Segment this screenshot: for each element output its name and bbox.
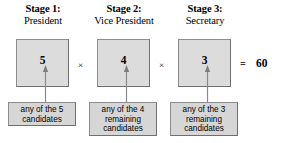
stage-3-title: Stage 3: — [162, 3, 248, 14]
stage-1-caption-line-1: any of the 5 — [11, 105, 73, 115]
stage-2-role: Vice President — [81, 15, 167, 26]
stage-column-1: Stage 1: President 5 any of the 5 candid… — [0, 0, 86, 26]
stage-3-caption-line-1: any of the 3 — [173, 105, 235, 115]
stage-2-header: Stage 2: Vice President — [81, 0, 167, 26]
stage-3-role: Secretary — [162, 15, 248, 26]
stage-2-caption-line-3: candidates — [92, 124, 154, 134]
equals-operator: = — [240, 59, 246, 69]
stage-2-title: Stage 2: — [81, 3, 167, 14]
stage-1-arrow-icon — [41, 63, 50, 103]
stage-3-header: Stage 3: Secretary — [162, 0, 248, 26]
stage-2-caption-line-2: remaining — [92, 115, 154, 125]
stage-2-caption-box: any of the 4 remaining candidates — [89, 102, 157, 136]
stage-1-caption-box: any of the 5 candidates — [8, 102, 76, 126]
stage-column-2: Stage 2: Vice President 4 any of the 4 r… — [81, 0, 167, 26]
multiply-operator-1: × — [78, 61, 83, 70]
stage-3-caption-line-3: candidates — [173, 124, 235, 134]
stage-1-header: Stage 1: President — [0, 0, 86, 26]
stage-3-caption-line-2: remaining — [173, 115, 235, 125]
stage-3-arrow-icon — [203, 63, 212, 103]
stage-1-title: Stage 1: — [0, 3, 86, 14]
stage-3-caption-box: any of the 3 remaining candidates — [170, 102, 238, 136]
stage-diagram: Stage 1: President 5 any of the 5 candid… — [0, 0, 288, 143]
stage-1-caption-line-2: candidates — [11, 115, 73, 125]
stage-2-caption-line-1: any of the 4 — [92, 105, 154, 115]
multiply-operator-2: × — [159, 61, 164, 70]
stage-column-3: Stage 3: Secretary 3 any of the 3 remain… — [162, 0, 248, 26]
stage-1-role: President — [0, 15, 86, 26]
total-value: 60 — [256, 58, 268, 70]
stage-2-arrow-icon — [122, 63, 131, 103]
